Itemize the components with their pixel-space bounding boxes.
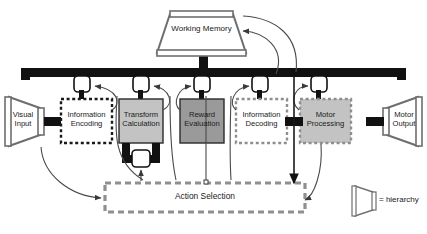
reward-evaluation-node[interactable] [180, 99, 224, 143]
information-encoding-node[interactable] [61, 99, 112, 143]
working-memory-node[interactable] [157, 11, 246, 56]
gate-node-2[interactable] [133, 74, 149, 101]
hierarchy-trapezoid-icon [352, 186, 376, 216]
information-decoding-node[interactable] [236, 99, 287, 143]
diagram-svg [0, 0, 427, 234]
action-selection-node[interactable] [105, 183, 305, 212]
arrow-wm-feed-b [243, 31, 278, 74]
action-selection-port [204, 180, 208, 184]
line-gate2-down [170, 96, 176, 180]
line-wm-feed-a [243, 16, 296, 72]
gate-node-3[interactable] [194, 74, 210, 101]
visual-input-node[interactable] [5, 97, 61, 146]
gate-node-4[interactable] [252, 74, 268, 101]
transform-recurrent-loop [126, 143, 156, 167]
line-gate4-down [230, 96, 231, 180]
arrow-visual-to-action [41, 147, 101, 198]
motor-processing-node[interactable] [300, 99, 351, 143]
arrow-motor-to-action [305, 144, 321, 200]
diagram-canvas: Working Memory Visual Input Information … [0, 0, 427, 234]
gate-node-5[interactable] [311, 74, 327, 101]
transform-calculation-node[interactable] [119, 99, 163, 143]
motor-output-node[interactable] [366, 97, 422, 146]
gate-node-1[interactable] [74, 74, 90, 101]
